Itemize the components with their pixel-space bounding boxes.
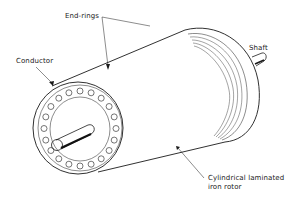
conductor-hole: [106, 104, 112, 110]
rotor-label-line1: Cylindrical laminated: [208, 174, 284, 183]
conductor-hole: [66, 90, 72, 96]
conductor-hole: [88, 90, 94, 96]
conductor-hole: [41, 126, 47, 132]
conductor-label: Conductor: [16, 57, 53, 66]
conductor-hole: [106, 148, 112, 154]
conductor-hole: [43, 137, 49, 143]
shaft-front: [52, 125, 95, 151]
conductor-hole: [98, 95, 104, 101]
shaft-back: [252, 53, 266, 66]
conductor-hole: [48, 104, 54, 110]
conductor-hole: [111, 114, 117, 120]
conductor-hole: [111, 137, 117, 143]
shaft-label: Shaft: [249, 44, 268, 53]
conductor-hole: [88, 161, 94, 167]
cylinder-body: [52, 30, 225, 172]
conductor-hole: [113, 126, 119, 132]
conductor-hole: [77, 88, 83, 94]
rotor-label-line2: iron rotor: [208, 183, 242, 192]
conductor-hole: [43, 114, 49, 120]
conductor-hole: [56, 156, 62, 162]
conductor-hole: [56, 95, 62, 101]
conductor-hole: [98, 156, 104, 162]
conductor-hole: [77, 163, 83, 169]
end-rings-label: End-rings: [65, 12, 99, 21]
conductor-hole: [66, 161, 72, 167]
rotor-diagram: [0, 0, 300, 197]
